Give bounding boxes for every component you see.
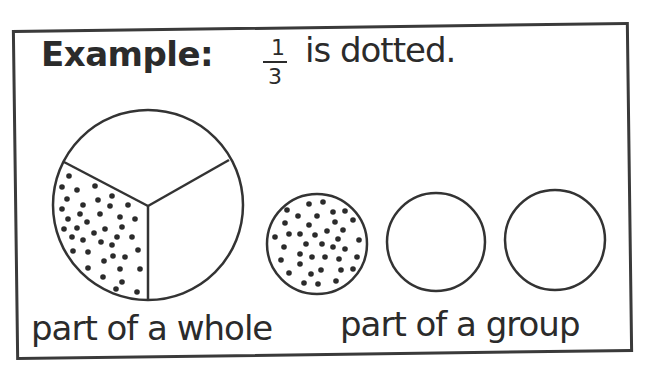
- group-circle-dotted: [267, 194, 367, 294]
- whole-circle-figure: [53, 110, 243, 300]
- divider-left: [64, 162, 148, 206]
- group-circles-figure: [267, 190, 605, 294]
- dotted-third: [59, 173, 143, 295]
- group-circle-dots: [272, 199, 362, 287]
- group-circle-empty-2: [505, 190, 605, 290]
- caption-part-of-whole: part of a whole: [31, 311, 272, 345]
- caption-part-of-group: part of a group: [340, 307, 580, 341]
- divider-right: [148, 160, 229, 206]
- group-circle-empty-1: [387, 193, 485, 291]
